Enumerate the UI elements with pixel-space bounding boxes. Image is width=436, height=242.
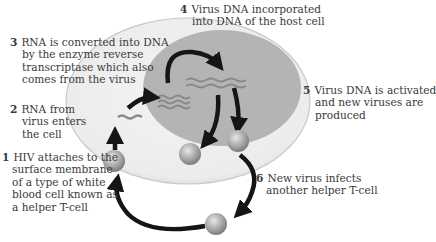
virus-particle-free — [205, 213, 227, 235]
arrow-return — [116, 182, 205, 229]
virus-particle-new-left — [179, 143, 201, 165]
virus-particle-new-right — [227, 130, 249, 152]
step-3-label: 3RNA is converted into DNA by the enzyme… — [10, 36, 169, 86]
step-6-label: 6New virus infects another helper T-cell — [256, 172, 378, 197]
step-1-label: 1HIV attaches to the surface membrane of… — [2, 151, 118, 213]
step-5-label: 5Virus DNA is activated and new viruses … — [303, 84, 436, 121]
step-4-label: 4Virus DNA incorporated into DNA of the … — [180, 3, 325, 28]
step-2-label: 2RNA from virus enters the cell — [10, 103, 86, 140]
